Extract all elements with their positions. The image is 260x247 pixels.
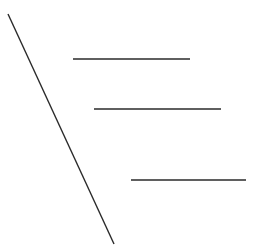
diagonal-line [8, 14, 114, 244]
diagram-canvas [0, 0, 260, 247]
